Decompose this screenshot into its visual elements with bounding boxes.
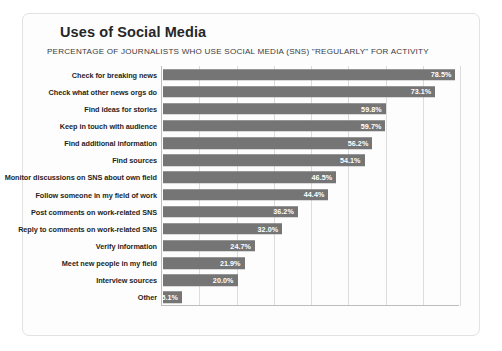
category-label: Check for breaking news <box>72 70 157 79</box>
bar: 21.9% <box>163 257 245 269</box>
bar: 59.8% <box>163 103 386 115</box>
bar: 32.0% <box>163 223 282 235</box>
bar: 44.4% <box>163 189 328 201</box>
category-label: Meet new people in my field <box>62 259 157 268</box>
bar-row: Monitor discussions on SNS about own fie… <box>162 169 459 186</box>
bar: 73.1% <box>163 86 435 98</box>
category-label: Reply to comments on work-related SNS <box>18 224 157 233</box>
bar-value-label: 78.5% <box>431 70 452 79</box>
bar-value-label: 36.2% <box>273 207 294 216</box>
bar-row: Post comments on work-related SNS36.2% <box>162 203 459 220</box>
bar-value-label: 73.1% <box>411 87 432 96</box>
bar-row: Keep in touch with audience59.7% <box>162 117 459 134</box>
bar-value-label: 54.1% <box>340 156 361 165</box>
plot-wrapper: Check for breaking news78.5%Check what o… <box>23 14 481 337</box>
bar: 59.7% <box>163 120 385 132</box>
bar-value-label: 5.1% <box>161 293 178 302</box>
category-label: Find additional information <box>64 139 157 148</box>
category-label: Check what other news orgs do <box>49 87 157 96</box>
bar-row: Verify information24.7% <box>162 237 459 254</box>
bar-row: Other5.1% <box>162 289 459 306</box>
bar: 56.2% <box>163 137 372 149</box>
category-label: Find sources <box>112 156 157 165</box>
bar-value-label: 56.2% <box>348 139 369 148</box>
bar-row: Reply to comments on work-related SNS32.… <box>162 220 459 237</box>
bar-row: Follow someone in my field of work44.4% <box>162 186 459 203</box>
category-label: Other <box>138 293 157 302</box>
bar-row: Check what other news orgs do73.1% <box>162 83 459 100</box>
bar-value-label: 44.4% <box>304 190 325 199</box>
bar-value-label: 20.0% <box>213 276 234 285</box>
plot-area: Check for breaking news78.5%Check what o… <box>161 66 459 306</box>
category-label: Follow someone in my field of work <box>35 190 157 199</box>
bar: 46.5% <box>163 172 336 184</box>
bar-row: Interview sources20.0% <box>162 272 459 289</box>
bar-value-label: 59.8% <box>361 104 382 113</box>
bar: 54.1% <box>163 155 365 167</box>
bar-value-label: 24.7% <box>230 241 251 250</box>
bar-row: Check for breaking news78.5% <box>162 66 459 83</box>
category-label: Monitor discussions on SNS about own fie… <box>5 173 157 182</box>
bar-value-label: 46.5% <box>312 173 333 182</box>
bar: 24.7% <box>163 240 255 252</box>
bar-row: Meet new people in my field21.9% <box>162 255 459 272</box>
bar: 20.0% <box>163 275 238 287</box>
bar-row: Find sources54.1% <box>162 152 459 169</box>
bar-value-label: 21.9% <box>220 259 241 268</box>
category-label: Post comments on work-related SNS <box>31 207 157 216</box>
category-label: Find ideas for stories <box>84 104 157 113</box>
bar-row: Find ideas for stories59.8% <box>162 100 459 117</box>
bar-row: Find additional information56.2% <box>162 135 459 152</box>
category-label: Keep in touch with audience <box>60 121 157 130</box>
bar-value-label: 32.0% <box>258 224 279 233</box>
bar: 78.5% <box>163 69 455 81</box>
gridline <box>460 66 461 306</box>
bar: 36.2% <box>163 206 298 218</box>
category-label: Verify information <box>96 241 157 250</box>
chart-frame: Uses of Social Media PERCENTAGE OF JOURN… <box>22 13 480 336</box>
bar: 5.1% <box>163 292 182 304</box>
bar-value-label: 59.7% <box>361 121 382 130</box>
category-label: Interview sources <box>96 276 157 285</box>
